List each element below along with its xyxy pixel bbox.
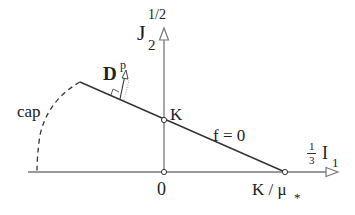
j2-axis-label-sup: 1/2 [148, 8, 166, 22]
i1-axis-label: I [322, 144, 328, 162]
j2-axis-arrow-icon [160, 28, 169, 40]
plastic-strain-label: D [103, 64, 117, 83]
origin-label: 0 [157, 180, 166, 198]
i1-axis-label-sub: 1 [332, 156, 339, 169]
yield-line-label: f = 0 [213, 127, 245, 144]
j2-axis-label-sub: 2 [148, 38, 156, 53]
k-label: K [170, 106, 182, 123]
yield-surface-diagram: J 2 1/2 1 3 I 1 K 0 K / μ * f = 0 cap D … [0, 0, 355, 215]
right-angle-mark [111, 89, 119, 95]
yield-line [80, 82, 285, 172]
cap-label: cap [17, 103, 41, 120]
point-k [161, 117, 166, 122]
cap-curve [37, 82, 80, 172]
point-origin [161, 169, 166, 174]
i1-axis-label-num: 1 [309, 141, 315, 152]
plastic-strain-label-sup: p [120, 59, 126, 71]
j2-axis-label: J [137, 22, 146, 44]
i1-axis-label-den: 3 [309, 155, 315, 166]
point-k-over-mu [282, 169, 287, 174]
k-over-mu-label: K / μ [252, 181, 287, 198]
k-over-mu-sub: * [294, 191, 301, 204]
dotted-helper [124, 80, 129, 100]
